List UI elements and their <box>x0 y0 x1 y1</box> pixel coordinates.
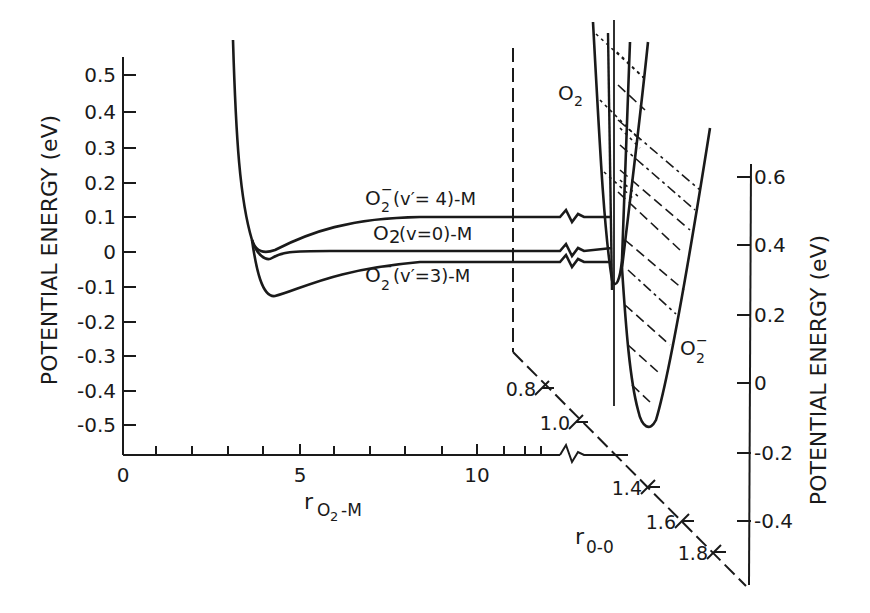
svg-text:(v=0)-M: (v=0)-M <box>399 223 472 244</box>
left-tick-label: 0 <box>103 240 116 264</box>
bottom-tick-label: 10 <box>464 463 489 487</box>
label-o2: O 2 <box>558 81 583 109</box>
right-y-axis <box>737 164 751 585</box>
svg-text:O: O <box>317 500 330 520</box>
right-tick-label: -0.4 <box>754 509 793 533</box>
potential-energy-diagram: 0.50.40.30.20.10-0.1-0.2-0.3-0.4-0.5 POT… <box>0 0 870 613</box>
r00-tick-label: 1.6 <box>646 511 676 533</box>
curve-labels: O 2 − (v′= 4)-M O 2 (v=0)-M O 2 − (v′=3)… <box>365 81 708 366</box>
svg-text:0-0: 0-0 <box>586 537 614 557</box>
left-tick-label: 0.4 <box>84 100 116 124</box>
right-y-axis-label: POTENTIAL ENERGY (eV) <box>806 235 831 505</box>
left-tick-label: -0.5 <box>77 413 116 437</box>
svg-text:(v′=3)-M: (v′=3)-M <box>393 265 470 286</box>
left-tick-label: -0.1 <box>77 275 116 299</box>
left-tick-label: -0.4 <box>77 379 116 403</box>
svg-text:−: − <box>381 181 393 197</box>
left-tick-label: -0.2 <box>77 310 116 334</box>
bottom-x-axis-label: r O 2 -M <box>304 489 362 524</box>
label-o2-v0-m: O 2 (v=0)-M <box>373 221 472 247</box>
bottom-x-tick-labels: 0510 <box>117 463 490 487</box>
left-y-tick-labels: 0.50.40.30.20.10-0.1-0.2-0.3-0.4-0.5 <box>77 63 116 437</box>
bottom-tick-label: 0 <box>117 463 130 487</box>
svg-text:2: 2 <box>574 93 583 109</box>
svg-text:−: − <box>381 258 393 274</box>
svg-text:r: r <box>575 524 585 549</box>
left-tick-label: 0.2 <box>84 171 116 195</box>
repulsive-wall <box>233 40 252 240</box>
svg-text:O: O <box>365 263 381 287</box>
right-tick-label: 0.6 <box>754 165 786 189</box>
right-tick-label: 0.4 <box>754 233 786 257</box>
svg-text:2: 2 <box>330 509 338 524</box>
o2-minus-well <box>622 128 710 427</box>
svg-text:O: O <box>680 336 696 360</box>
svg-text:O: O <box>558 81 574 105</box>
right-tick-label: 0.2 <box>754 303 786 327</box>
r00-tick-label: 1.4 <box>612 477 642 499</box>
svg-text:O: O <box>373 221 389 245</box>
label-o2m-v4-m: O 2 − (v′= 4)-M <box>365 181 476 215</box>
r00-tick-label: 1.8 <box>678 542 708 564</box>
svg-text:2: 2 <box>696 350 705 366</box>
r00-axis-label: r 0-0 <box>575 524 614 557</box>
r00-tick-label: 0.8 <box>506 378 536 400</box>
right-tick-label: 0 <box>754 371 767 395</box>
label-o2-minus: O 2 − <box>680 332 708 366</box>
svg-text:2: 2 <box>381 277 390 293</box>
left-y-axis <box>123 57 136 455</box>
bottom-tick-label: 5 <box>294 463 307 487</box>
left-tick-label: 0.5 <box>84 63 116 87</box>
svg-text:−: − <box>696 332 708 348</box>
left-tick-label: 0.3 <box>84 136 116 160</box>
right-y-tick-labels: 0.60.40.20-0.2-0.4 <box>754 165 793 533</box>
svg-text:(v′= 4)-M: (v′= 4)-M <box>393 188 476 209</box>
surface-curves <box>233 40 612 296</box>
bottom-x-axis <box>123 444 628 462</box>
svg-text:r: r <box>304 489 314 514</box>
svg-text:O: O <box>365 186 381 210</box>
r00-tick-label: 1.0 <box>540 412 570 434</box>
svg-text:2: 2 <box>381 199 390 215</box>
left-tick-label: 0.1 <box>84 205 116 229</box>
left-y-axis-label: POTENTIAL ENERGY (eV) <box>37 115 62 385</box>
svg-text:-M: -M <box>341 500 362 520</box>
right-tick-label: -0.2 <box>754 441 793 465</box>
left-tick-label: -0.3 <box>77 344 116 368</box>
